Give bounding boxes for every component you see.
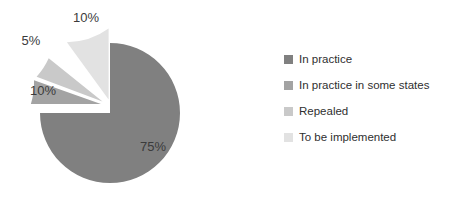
pie-chart-figure: 75% 10% 5% 10% In practice In practice i… (0, 0, 475, 199)
pie-chart: 75% 10% 5% 10% (0, 0, 260, 199)
pie-label-in-practice-some-states: 10% (30, 83, 56, 98)
legend-item-repealed[interactable]: Repealed (284, 104, 470, 118)
legend-swatch-icon (284, 81, 293, 90)
legend-item-label: To be implemented (299, 130, 396, 144)
pie-label-in-practice: 75% (140, 139, 166, 154)
legend-item-label: In practice in some states (299, 78, 429, 92)
legend-item-label: Repealed (299, 104, 348, 118)
legend-item-in-practice-some-states[interactable]: In practice in some states (284, 78, 470, 92)
legend-swatch-icon (284, 107, 293, 116)
legend-item-in-practice[interactable]: In practice (284, 52, 470, 66)
legend-swatch-icon (284, 133, 293, 142)
legend-item-label: In practice (299, 52, 352, 66)
legend-item-to-be-implemented[interactable]: To be implemented (284, 130, 470, 144)
pie-label-repealed: 5% (22, 33, 41, 48)
pie-label-to-be-implemented: 10% (73, 10, 99, 25)
legend-swatch-icon (284, 55, 293, 64)
chart-legend: In practice In practice in some states R… (284, 52, 470, 144)
pie-slice-in-practice[interactable] (40, 43, 180, 183)
